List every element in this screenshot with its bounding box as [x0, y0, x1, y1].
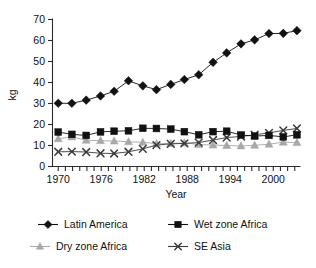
series-line: [58, 137, 297, 146]
legend-item-wet-zone-africa[interactable]: Wet zone Africa: [168, 218, 268, 230]
legend-item-se-asia[interactable]: SE Asia: [168, 240, 231, 252]
line-chart: 010203040506070 197019761982198819942000…: [0, 0, 316, 268]
marker-diamond: [293, 26, 302, 35]
marker-square: [55, 129, 62, 136]
x-tick-label: 2000: [262, 173, 286, 185]
marker-diamond: [96, 92, 105, 101]
marker-square: [68, 131, 75, 138]
marker-diamond: [265, 29, 274, 38]
marker-square: [266, 132, 273, 139]
legend-label: Wet zone Africa: [194, 218, 268, 230]
x-axis: 197019761982198819942000: [47, 167, 301, 185]
marker-triangle: [223, 141, 231, 148]
marker-square: [175, 221, 181, 227]
marker-square: [294, 131, 301, 138]
marker-triangle: [293, 138, 301, 145]
y-tick-label: 20: [33, 118, 45, 130]
x-tick-label: 1982: [133, 173, 157, 185]
series-wet-zone-africa: [55, 125, 300, 140]
marker-square: [83, 132, 90, 139]
marker-diamond: [110, 87, 119, 96]
series-latin-america: [54, 26, 301, 107]
x-tick-label: 1976: [90, 173, 114, 185]
marker-triangle: [124, 138, 132, 145]
marker-diamond: [44, 220, 52, 228]
marker-square: [210, 128, 217, 135]
data-series-group: [54, 26, 301, 157]
marker-diamond: [222, 49, 231, 58]
y-tick-label: 50: [33, 55, 45, 67]
chart-legend: Latin AmericaWet zone AfricaDry zone Afr…: [30, 218, 268, 252]
marker-square: [238, 132, 245, 139]
series-line: [58, 31, 297, 104]
marker-triangle: [237, 142, 245, 149]
marker-square: [280, 133, 287, 140]
y-tick-label: 60: [33, 34, 45, 46]
y-tick-label: 0: [39, 160, 45, 172]
y-axis-title: kg: [6, 89, 18, 100]
y-tick-label: 30: [33, 97, 45, 109]
marker-diamond: [250, 36, 259, 45]
marker-diamond: [152, 85, 161, 94]
x-axis-title: Year: [165, 188, 187, 200]
y-tick-label: 70: [33, 13, 45, 25]
marker-triangle: [36, 243, 44, 250]
legend-item-dry-zone-africa[interactable]: Dry zone Africa: [30, 240, 127, 252]
marker-triangle: [139, 138, 147, 145]
series-se-asia: [55, 125, 300, 157]
marker-square: [111, 128, 118, 135]
marker-triangle: [97, 136, 105, 143]
legend-label: Latin America: [64, 218, 128, 230]
marker-square: [153, 125, 160, 132]
marker-square: [251, 133, 258, 140]
marker-square: [139, 125, 146, 132]
legend-label: Dry zone Africa: [56, 240, 127, 252]
marker-square: [125, 127, 132, 134]
marker-diamond: [139, 82, 148, 91]
marker-triangle: [110, 137, 118, 144]
marker-square: [195, 131, 202, 138]
legend-label: SE Asia: [194, 240, 231, 252]
x-tick-label: 1994: [219, 173, 243, 185]
legend-item-latin-america[interactable]: Latin America: [38, 218, 128, 230]
marker-diamond: [180, 75, 189, 84]
y-tick-label: 40: [33, 76, 45, 88]
marker-square: [181, 128, 188, 135]
series-line: [58, 128, 297, 137]
y-tick-label: 10: [33, 139, 45, 151]
marker-diamond: [124, 77, 133, 86]
marker-diamond: [82, 96, 91, 105]
x-tick-label: 1970: [47, 173, 71, 185]
y-axis: 010203040506070: [33, 13, 52, 172]
marker-x: [139, 145, 146, 152]
marker-diamond: [237, 40, 246, 49]
marker-square: [167, 126, 174, 133]
marker-square: [97, 128, 104, 135]
marker-diamond: [68, 99, 77, 108]
marker-diamond: [54, 99, 63, 108]
marker-square: [223, 128, 230, 135]
series-line: [58, 128, 297, 153]
series-dry-zone-africa: [54, 133, 301, 149]
marker-diamond: [166, 80, 175, 89]
marker-diamond: [279, 29, 288, 38]
chart-container: 010203040506070 197019761982198819942000…: [0, 0, 316, 268]
x-tick-label: 1988: [176, 173, 200, 185]
